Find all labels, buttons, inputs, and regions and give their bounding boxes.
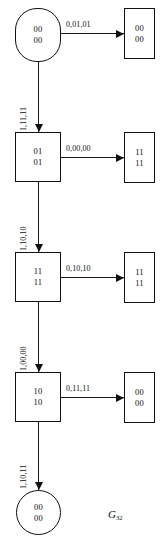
output-node-out2-line2: 11	[135, 158, 144, 169]
output-node-out3[interactable]: 11 11	[124, 252, 155, 303]
edge-arrow-s1-to-s2	[35, 244, 43, 252]
output-node-out2[interactable]: 11 11	[124, 132, 155, 183]
edge-line-s3-to-out4	[61, 397, 124, 398]
state-diagram-canvas: 00 00 01 01 11 11 10 10 00 00 00 00 11 1…	[0, 0, 164, 554]
output-node-out3-line2: 11	[135, 278, 144, 289]
edge-line-s2-to-s3	[38, 302, 39, 372]
edge-label-s2-to-s3: 1,00,00	[19, 346, 28, 371]
output-node-out4[interactable]: 00 00	[124, 372, 155, 423]
edge-arrow-s1-to-out2	[116, 154, 124, 162]
state-node-s2-line2: 11	[34, 277, 43, 288]
edge-arrow-s2-to-s3	[35, 364, 43, 372]
edge-line-start-to-s1	[38, 62, 39, 132]
edge-line-s1-to-s2	[38, 182, 39, 252]
state-node-end-line1: 00	[34, 502, 43, 513]
output-node-out1-line1: 00	[135, 23, 144, 34]
state-node-s1-line1: 01	[34, 146, 43, 157]
diagram-caption: G32	[108, 508, 122, 520]
edge-label-s2-to-out3: 0,10,10	[66, 264, 91, 273]
output-node-out2-line1: 11	[135, 147, 144, 158]
state-node-s1[interactable]: 01 01	[15, 132, 61, 182]
state-node-start-line2: 00	[34, 35, 43, 46]
state-node-s3[interactable]: 10 10	[15, 372, 61, 422]
state-node-s2[interactable]: 11 11	[15, 252, 61, 302]
edge-arrow-s3-to-end	[35, 482, 43, 490]
state-node-s3-line1: 10	[34, 386, 43, 397]
edge-label-s1-to-out2: 0,00,00	[66, 144, 91, 153]
edge-arrow-s2-to-out3	[116, 274, 124, 282]
output-node-out1-line2: 00	[135, 34, 144, 45]
state-node-s1-line2: 01	[34, 157, 43, 168]
edge-arrow-start-to-out1	[116, 30, 124, 38]
state-node-start-line1: 00	[34, 24, 43, 35]
output-node-out4-line1: 00	[135, 387, 144, 398]
output-node-out1[interactable]: 00 00	[124, 8, 155, 59]
output-node-out3-line1: 11	[135, 267, 144, 278]
edge-line-s3-to-end	[38, 422, 39, 490]
edge-label-start-to-out1: 0,01,01	[66, 20, 91, 29]
state-node-s2-line1: 11	[34, 266, 43, 277]
edge-arrow-start-to-s1	[35, 124, 43, 132]
state-node-s3-line2: 10	[34, 397, 43, 408]
edge-line-start-to-out1	[61, 33, 124, 34]
state-node-end[interactable]: 00 00	[16, 490, 61, 535]
edge-label-s3-to-out4: 0,11,11	[66, 384, 90, 393]
output-node-out4-line2: 00	[135, 398, 144, 409]
edge-line-s2-to-out3	[61, 277, 124, 278]
edge-label-s1-to-s2: 1,10,10	[19, 226, 28, 251]
state-node-end-line2: 00	[34, 513, 43, 524]
edge-label-start-to-s1: 1,11,11	[19, 107, 28, 131]
edge-label-s3-to-end: 1,10,11	[19, 465, 28, 489]
diagram-caption-subscript: 32	[116, 514, 123, 521]
state-node-start[interactable]: 00 00	[15, 8, 61, 62]
edge-line-s1-to-out2	[61, 157, 124, 158]
diagram-caption-symbol: G	[108, 508, 116, 520]
edge-arrow-s3-to-out4	[116, 394, 124, 402]
